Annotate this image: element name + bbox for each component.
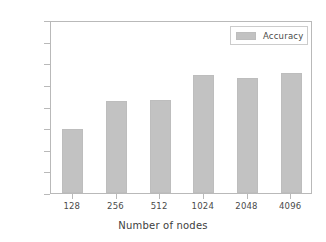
x-tick-mark xyxy=(247,194,248,199)
x-tick-mark xyxy=(203,194,204,199)
plot-area xyxy=(50,21,312,194)
bar xyxy=(237,78,258,193)
x-axis-title: Number of nodes xyxy=(0,220,326,231)
bar xyxy=(193,75,214,193)
y-tick-mark xyxy=(44,194,50,195)
bar xyxy=(62,129,83,193)
x-tick-label: 2048 xyxy=(225,201,269,211)
bar xyxy=(106,101,127,193)
x-tick-mark xyxy=(72,194,73,199)
x-tick-label: 256 xyxy=(94,201,138,211)
bars-layer xyxy=(51,22,311,193)
bar xyxy=(281,73,302,193)
x-tick-label: 1024 xyxy=(181,201,225,211)
x-tick-mark xyxy=(159,194,160,199)
x-tick-mark xyxy=(290,194,291,199)
x-tick-label: 4096 xyxy=(268,201,312,211)
bar xyxy=(150,100,171,193)
legend-swatch-accuracy xyxy=(236,32,256,40)
chart-legend: Accuracy xyxy=(230,26,308,45)
x-tick-label: 512 xyxy=(137,201,181,211)
x-tick-mark xyxy=(116,194,117,199)
x-tick-label: 128 xyxy=(50,201,94,211)
bar-chart-figure: 0.97000.97250.97500.97750.98000.98250.98… xyxy=(0,0,326,242)
legend-label-accuracy: Accuracy xyxy=(263,31,303,41)
